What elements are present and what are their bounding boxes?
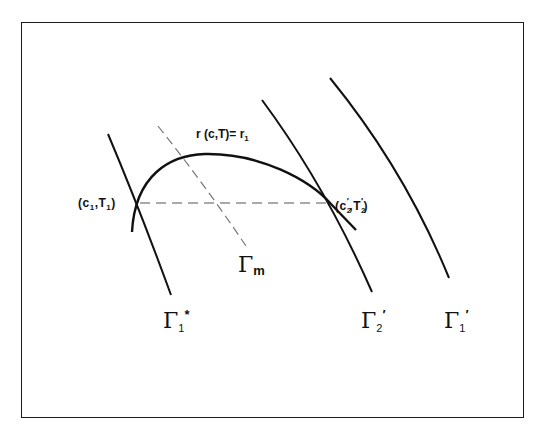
point-1-mid: ,T: [95, 196, 107, 210]
point-1-label: (c1,T1): [78, 197, 116, 212]
point-2-close: ): [364, 199, 369, 213]
gamma-1-prime-label: Γ1′: [444, 308, 469, 334]
gamma-1-prime-curve: [330, 78, 449, 278]
gamma-1-prime-base: Γ: [444, 308, 459, 333]
gamma-2-prime-sup: ′: [382, 307, 385, 322]
point-1-close: ): [111, 196, 116, 210]
r-curve-label: r (c,T)= r1: [196, 128, 249, 143]
r-curve-label-sub: 1: [244, 134, 248, 143]
gamma-m-base: Γ: [238, 252, 253, 277]
gamma-1-star-sup: *: [184, 307, 189, 322]
gamma-1-star-sub: 1: [178, 322, 184, 334]
gamma-1-star-base: Γ: [163, 308, 178, 333]
point-2-open: (c: [335, 199, 347, 213]
gamma-2-prime-sub: 2: [376, 322, 382, 334]
diagram-canvas: [0, 0, 540, 436]
gamma-m-sub: m: [253, 263, 265, 278]
gamma-2-prime-label: Γ2′: [361, 308, 386, 334]
r-curve-label-text: r (c,T)= r: [196, 127, 244, 141]
gamma-m-curve: [158, 126, 246, 246]
gamma-2-prime-curve: [262, 100, 372, 292]
gamma-2-prime-base: Γ: [361, 308, 376, 333]
gamma-1-prime-sup: ′: [465, 307, 468, 322]
gamma-1-star-curve: [108, 134, 171, 295]
point-1-open: (c: [78, 196, 90, 210]
gamma-m-label: Γm: [238, 254, 265, 277]
gamma-1-star-label: Γ1*: [163, 308, 189, 334]
point-2-mid: ,T: [349, 199, 361, 213]
gamma-1-prime-sub: 1: [459, 322, 465, 334]
point-2-label: (c2′,T2′): [335, 197, 368, 215]
